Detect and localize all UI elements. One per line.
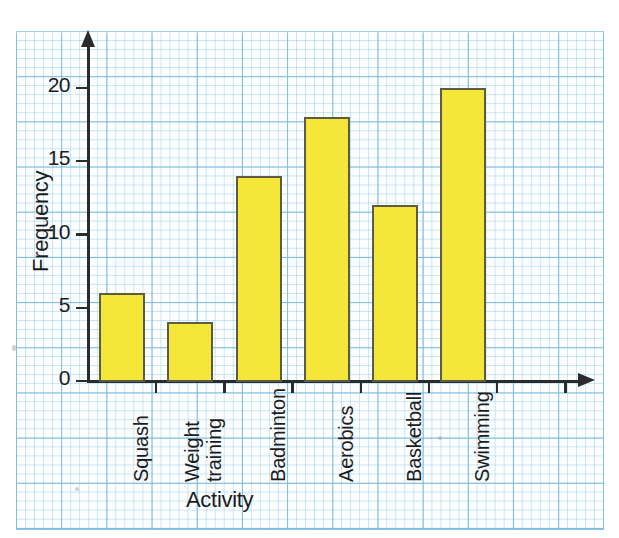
- category-label-swimming: Swimming: [471, 391, 494, 482]
- y-axis-title: Frequency: [28, 171, 54, 272]
- y-axis-tick-0: [76, 380, 87, 382]
- scan-speck: [438, 436, 442, 440]
- y-axis-tick-20: [76, 87, 87, 89]
- y-axis-tick-label: 0: [26, 366, 70, 390]
- category-label-squash: Squash: [130, 415, 153, 482]
- category-label-basketball: Basketball: [403, 392, 426, 482]
- y-axis-tick-5: [76, 307, 87, 309]
- y-axis-arrow-icon: [81, 30, 95, 47]
- x-axis-tick: [496, 381, 498, 393]
- y-axis-tick-label: 20: [26, 73, 70, 97]
- bar-swimming: [440, 88, 486, 382]
- bar-aerobics: [304, 117, 350, 382]
- scan-speck: [12, 345, 16, 351]
- bar-badminton: [236, 176, 282, 382]
- bar-squash: [99, 293, 145, 382]
- x-axis-tick: [564, 381, 566, 393]
- bar-chart: 05101520 SquashWeighttrainingBadmintonAe…: [0, 0, 619, 538]
- bar-weight-training: [167, 322, 213, 382]
- x-axis-tick: [223, 381, 225, 393]
- category-label-aerobics: Aerobics: [335, 406, 358, 482]
- category-label-weight-training-line2: training: [203, 418, 226, 482]
- x-axis-arrow-icon: [578, 373, 595, 387]
- x-axis-tick: [360, 381, 362, 393]
- y-axis-tick-10: [76, 233, 87, 235]
- y-axis-tick-label: 5: [26, 293, 70, 317]
- category-label-weight-training-line1: Weight: [181, 421, 204, 482]
- bar-basketball: [372, 205, 418, 382]
- scan-speck: [75, 487, 79, 491]
- x-axis-title: Activity: [186, 487, 253, 513]
- category-label-badminton: Badminton: [267, 388, 290, 482]
- x-axis-tick: [155, 381, 157, 393]
- y-axis-tick-15: [76, 160, 87, 162]
- x-axis-tick: [428, 381, 430, 393]
- x-axis-tick: [291, 381, 293, 393]
- y-axis-tick-label: 15: [26, 146, 70, 170]
- y-axis-line: [87, 44, 90, 382]
